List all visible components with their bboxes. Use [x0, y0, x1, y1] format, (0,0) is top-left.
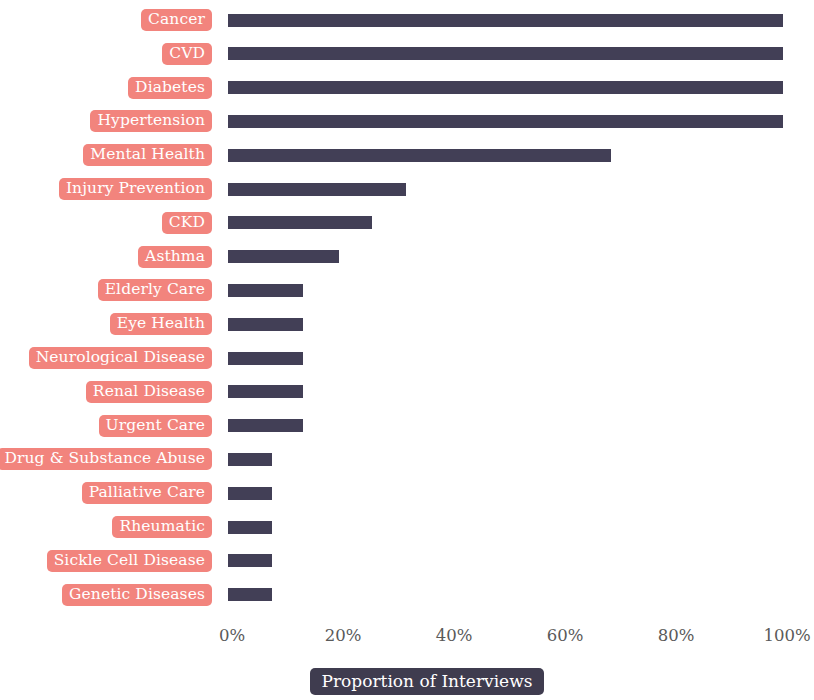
bar	[228, 521, 272, 534]
bar-track	[228, 273, 808, 307]
bar-row: CKD	[0, 206, 814, 240]
bar-track	[228, 341, 808, 375]
bar-track	[228, 71, 808, 105]
bar	[228, 216, 372, 229]
bar-row: Urgent Care	[0, 409, 814, 443]
category-label: Drug & Substance Abuse	[0, 448, 212, 470]
category-label: Eye Health	[110, 313, 212, 335]
category-label: Hypertension	[90, 110, 212, 132]
bar-row: Genetic Diseases	[0, 578, 814, 612]
category-label: Genetic Diseases	[62, 584, 212, 606]
bar-row: Mental Health	[0, 138, 814, 172]
bar-row: Hypertension	[0, 104, 814, 138]
category-label: Injury Prevention	[59, 178, 212, 200]
bar-row: Elderly Care	[0, 273, 814, 307]
x-tick-label: 0%	[219, 626, 245, 645]
bar-track	[228, 104, 808, 138]
bar-row: Rheumatic	[0, 510, 814, 544]
bar-track	[228, 409, 808, 443]
bar-row: Drug & Substance Abuse	[0, 442, 814, 476]
bar	[228, 14, 783, 27]
bar	[228, 487, 272, 500]
category-label-cell: Neurological Disease	[0, 341, 212, 375]
x-axis-tick-labels: 0%20%40%60%80%100%	[0, 626, 814, 656]
bar	[228, 149, 611, 162]
x-tick-label: 60%	[547, 626, 584, 645]
category-label-cell: Mental Health	[0, 138, 212, 172]
category-label-cell: Cancer	[0, 3, 212, 37]
bar	[228, 47, 783, 60]
bar	[228, 554, 272, 567]
bar-row: CVD	[0, 37, 814, 71]
category-label-cell: Rheumatic	[0, 510, 212, 544]
bar-track	[228, 206, 808, 240]
category-label: Neurological Disease	[29, 347, 212, 369]
category-label-cell: Elderly Care	[0, 273, 212, 307]
bar	[228, 318, 303, 331]
bar	[228, 419, 303, 432]
category-label-cell: Drug & Substance Abuse	[0, 442, 212, 476]
bar-track	[228, 578, 808, 612]
bar	[228, 385, 303, 398]
category-label: Cancer	[141, 9, 212, 31]
bar	[228, 352, 303, 365]
bar	[228, 183, 406, 196]
bar-track	[228, 172, 808, 206]
bar	[228, 115, 783, 128]
bar-row: Injury Prevention	[0, 172, 814, 206]
category-label-cell: Asthma	[0, 240, 212, 274]
bar	[228, 81, 783, 94]
bar-track	[228, 510, 808, 544]
bar-track	[228, 138, 808, 172]
bar-row: Neurological Disease	[0, 341, 814, 375]
bar-track	[228, 37, 808, 71]
bar	[228, 250, 339, 263]
bar-track	[228, 442, 808, 476]
category-label-cell: Renal Disease	[0, 375, 212, 409]
bar-row: Palliative Care	[0, 476, 814, 510]
category-label: Sickle Cell Disease	[47, 550, 212, 572]
bar	[228, 453, 272, 466]
horizontal-bar-chart: CancerCVDDiabetesHypertensionMental Heal…	[0, 0, 814, 700]
x-tick-label: 40%	[436, 626, 473, 645]
category-label-cell: Injury Prevention	[0, 172, 212, 206]
bar	[228, 284, 303, 297]
category-label-cell: CKD	[0, 206, 212, 240]
category-label: Rheumatic	[112, 516, 212, 538]
category-label: Palliative Care	[82, 482, 212, 504]
x-tick-label: 100%	[763, 626, 810, 645]
category-label-cell: Urgent Care	[0, 409, 212, 443]
bar	[228, 588, 272, 601]
category-label-cell: CVD	[0, 37, 212, 71]
bar-row: Sickle Cell Disease	[0, 544, 814, 578]
category-label-cell: Palliative Care	[0, 476, 212, 510]
bar-track	[228, 240, 808, 274]
category-label: CKD	[162, 212, 212, 234]
category-label: Mental Health	[83, 144, 212, 166]
bar-track	[228, 3, 808, 37]
category-label: Diabetes	[128, 77, 212, 99]
category-label-cell: Sickle Cell Disease	[0, 544, 212, 578]
category-label-cell: Diabetes	[0, 71, 212, 105]
bar-row: Asthma	[0, 240, 814, 274]
bar-track	[228, 544, 808, 578]
bar-row: Cancer	[0, 3, 814, 37]
category-label-cell: Eye Health	[0, 307, 212, 341]
bar-row: Renal Disease	[0, 375, 814, 409]
x-axis-title: Proportion of Interviews	[310, 668, 545, 695]
chart-plot-area: CancerCVDDiabetesHypertensionMental Heal…	[0, 0, 814, 625]
category-label-cell: Hypertension	[0, 104, 212, 138]
category-label-cell: Genetic Diseases	[0, 578, 212, 612]
x-tick-label: 80%	[658, 626, 695, 645]
bar-row: Eye Health	[0, 307, 814, 341]
category-label: CVD	[162, 43, 212, 65]
category-label: Renal Disease	[86, 381, 212, 403]
bar-track	[228, 307, 808, 341]
category-label: Urgent Care	[99, 415, 213, 437]
category-label: Elderly Care	[98, 279, 212, 301]
bar-track	[228, 476, 808, 510]
bar-row: Diabetes	[0, 71, 814, 105]
x-axis-title-container: Proportion of Interviews	[0, 668, 814, 695]
x-tick-label: 20%	[325, 626, 362, 645]
category-label: Asthma	[138, 246, 212, 268]
